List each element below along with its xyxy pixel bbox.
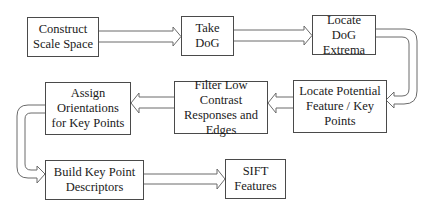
node-label: Locate Potential Feature / Key Points [299, 84, 381, 129]
node-label: Filter Low Contrast Responses and Edges [177, 78, 265, 138]
node-construct-scale-space: Construct Scale Space [27, 17, 99, 57]
sift-pipeline-diagram: Construct Scale Space Take DoG Locate Do… [0, 0, 434, 214]
arrow-filter-to-assign [131, 93, 174, 113]
node-label: SIFT Features [234, 164, 276, 194]
node-take-dog: Take DoG [181, 16, 234, 56]
arrow-potential-to-filter [268, 93, 293, 113]
node-locate-potential-keypoints: Locate Potential Feature / Key Points [293, 80, 387, 133]
node-assign-orientations: Assign Orientations for Key Points [45, 82, 131, 135]
node-locate-dog-extrema: Locate DoG Extrema [312, 15, 376, 55]
node-label: Locate DoG Extrema [315, 13, 373, 58]
node-sift-features: SIFT Features [225, 159, 286, 199]
arrow-assign-to-build [17, 105, 45, 183]
node-label: Take DoG [195, 21, 219, 51]
arrow-build-to-sift [144, 169, 225, 189]
arrow-construct-to-takedog [99, 27, 181, 46]
node-build-descriptors: Build Key Point Descriptors [45, 160, 144, 200]
node-label: Construct Scale Space [33, 22, 93, 52]
node-filter-low-contrast: Filter Low Contrast Responses and Edges [174, 81, 268, 134]
node-label: Build Key Point Descriptors [54, 165, 135, 195]
node-label: Assign Orientations for Key Points [52, 86, 125, 131]
arrow-takedog-to-extrema [234, 26, 312, 45]
